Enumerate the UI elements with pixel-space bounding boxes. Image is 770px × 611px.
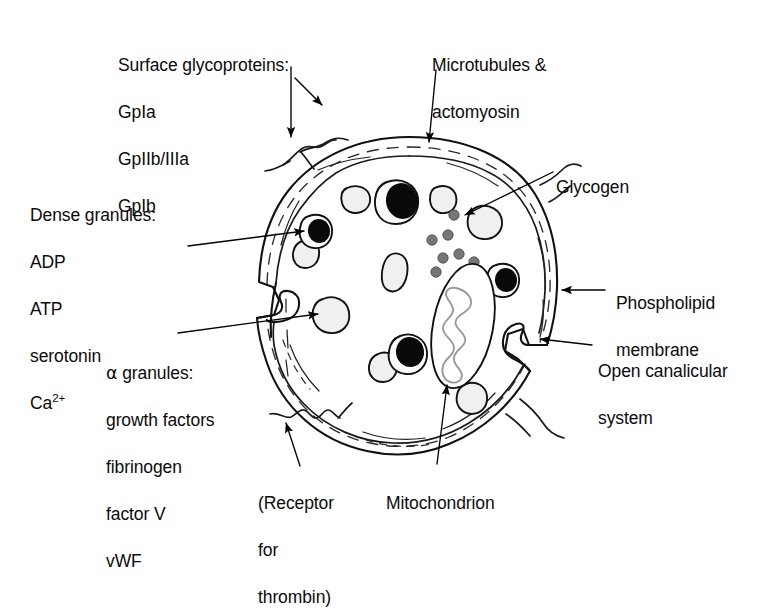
dense-granules-item-0: ADP <box>30 251 156 275</box>
surface-glycoproteins-item-0: GpIa <box>118 101 289 125</box>
label-alpha-granules: α granules: growth factors fibrinogen fa… <box>106 338 215 597</box>
dense-granules-title: Dense granules: <box>30 204 156 228</box>
calcium-charge: 2+ <box>52 392 65 404</box>
surface-glycoproteins-title: Surface glycoproteins: <box>118 54 289 78</box>
alpha-granule <box>430 186 456 213</box>
mitochondrion-text: Mitochondrion <box>386 492 495 516</box>
phospholipid-line-1: Phospholipid <box>616 292 715 316</box>
alpha-symbol: α <box>106 363 117 383</box>
alpha-granules-title-text: granules: <box>117 363 193 383</box>
leader-receptor-thrombin <box>286 423 300 466</box>
label-open-canalicular-system: Open canalicular system <box>598 336 728 454</box>
receptor-line-1: (Receptor <box>258 492 334 516</box>
label-receptor-for-thrombin: (Receptor for thrombin) <box>258 468 334 611</box>
alpha-granule <box>382 253 408 291</box>
glycogen-particle <box>431 267 441 277</box>
label-mitochondrion: Mitochondrion <box>386 468 495 539</box>
alpha-granule <box>341 186 370 213</box>
label-microtubules-actomyosin: Microtubules & actomyosin <box>432 30 546 148</box>
alpha-granule <box>313 297 350 333</box>
glycogen-particle <box>427 235 437 245</box>
alpha-granules-item-1: fibrinogen <box>106 456 215 480</box>
label-glycogen: Glycogen <box>556 152 629 223</box>
dense-granules-item-1: ATP <box>30 298 156 322</box>
glycogen-particle <box>454 249 464 259</box>
alpha-granules-item-2: factor V <box>106 503 215 527</box>
dense-granule <box>389 334 427 374</box>
microtubules-line-1: Microtubules & <box>432 54 546 78</box>
open-canalicular-line-2: system <box>598 407 728 431</box>
glycogen-particle <box>449 210 459 220</box>
microtubules-line-2: actomyosin <box>432 101 546 125</box>
alpha-granules-item-3: vWF <box>106 550 215 574</box>
alpha-granules-item-0: growth factors <box>106 409 215 433</box>
glycogen-particle <box>438 253 448 263</box>
glycogen-particle <box>443 230 453 240</box>
open-canalicular-line-1: Open canalicular <box>598 360 728 384</box>
calcium-base: Ca <box>30 393 52 413</box>
alpha-granules-title: α granules: <box>106 362 215 386</box>
leader-glycoproteins-diagonal <box>295 78 322 105</box>
receptor-line-3: thrombin) <box>258 586 334 610</box>
receptor-line-2: for <box>258 539 334 563</box>
surface-glycoproteins-item-1: GpIIb/IIIa <box>118 148 289 172</box>
glycogen-text: Glycogen <box>556 176 629 200</box>
